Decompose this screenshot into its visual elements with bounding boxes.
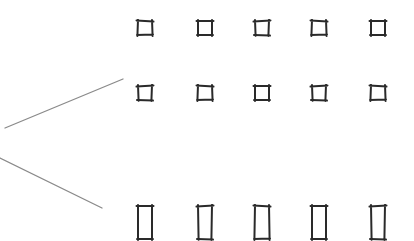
middle-square-shape	[311, 85, 328, 101]
top-square-shape	[254, 20, 271, 36]
middle-square-shape	[137, 85, 154, 101]
top-square-shape	[197, 20, 214, 36]
upper-diverging-line	[5, 79, 123, 128]
bottom-rectangle-shape	[197, 205, 214, 240]
bottom-rectangle-shape	[311, 205, 328, 240]
top-square-shape	[137, 20, 154, 36]
lower-diverging-line	[0, 158, 102, 208]
bottom-rectangle-shape	[370, 205, 387, 240]
middle-square-shape	[197, 85, 214, 101]
top-square-shape	[311, 20, 328, 36]
top-square-shape	[370, 20, 387, 36]
middle-square-shape	[370, 85, 387, 101]
bottom-rectangle-shape	[137, 205, 154, 240]
middle-square-shape	[254, 85, 271, 101]
bottom-rectangle-shape	[254, 205, 271, 240]
sketch-canvas	[0, 0, 414, 241]
